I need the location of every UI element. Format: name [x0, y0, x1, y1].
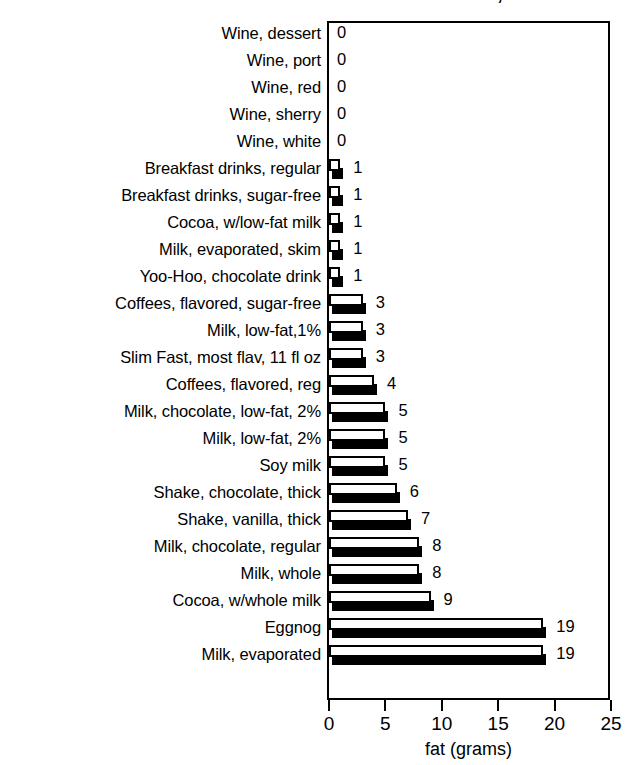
x-axis: fat (grams) 0510152025	[327, 700, 610, 764]
category-label: Wine, dessert	[221, 23, 321, 43]
bar-face	[329, 321, 363, 333]
category-label: Breakfast drinks, regular	[145, 158, 321, 178]
bar	[329, 591, 437, 614]
bar-face	[329, 537, 419, 549]
bar-face	[329, 267, 340, 279]
category-label: Cocoa, w/whole milk	[173, 590, 322, 610]
bar-value-label: 6	[410, 481, 419, 501]
bar-row: Milk, evaporated19	[0, 642, 641, 669]
bar-row: Shake, chocolate, thick6	[0, 480, 641, 507]
bar-row: Cocoa, w/low-fat milk1	[0, 210, 641, 237]
bar-face	[329, 186, 340, 198]
bar	[329, 456, 391, 479]
bar-row: Wine, dessert0	[0, 21, 641, 48]
category-label: Coffees, flavored, sugar-free	[115, 293, 321, 313]
category-label: Wine, port	[247, 50, 321, 70]
category-label: Milk, chocolate, regular	[154, 536, 321, 556]
x-axis-tick-mark	[328, 700, 330, 711]
bar-value-label: 4	[387, 373, 396, 393]
bar-face	[329, 375, 374, 387]
bar	[329, 348, 369, 371]
bar-value-label: 8	[432, 562, 441, 582]
bar-value-label: 0	[337, 49, 346, 69]
bar-value-label: 1	[353, 265, 362, 285]
bar-face	[329, 510, 408, 522]
bar-row: Eggnog19	[0, 615, 641, 642]
bar-face	[329, 456, 385, 468]
chart-title: BEVERAGES, Part 3	[327, 0, 611, 5]
bar	[329, 375, 380, 398]
bar-row: Wine, red0	[0, 75, 641, 102]
bar-row: Soy milk5	[0, 453, 641, 480]
bar-row: Milk, whole8	[0, 561, 641, 588]
category-label: Milk, evaporated	[202, 644, 321, 664]
bar-value-label: 9	[444, 589, 453, 609]
bar-value-label: 7	[421, 508, 430, 528]
category-label: Soy milk	[259, 455, 321, 475]
x-axis-tick-label: 10	[422, 713, 462, 735]
bar-value-label: 3	[376, 346, 385, 366]
x-axis-tick-label: 5	[365, 713, 405, 735]
x-axis-tick-mark	[384, 700, 386, 711]
bar-row: Breakfast drinks, regular1	[0, 156, 641, 183]
bar-row: Milk, chocolate, regular8	[0, 534, 641, 561]
bar	[329, 159, 346, 182]
bar-value-label: 0	[337, 130, 346, 150]
bar-row: Coffees, flavored, reg4	[0, 372, 641, 399]
x-axis-tick-mark	[610, 700, 612, 711]
bar-face	[329, 618, 543, 630]
bar	[329, 537, 425, 560]
bar	[329, 564, 425, 587]
bar-value-label: 8	[432, 535, 441, 555]
category-label: Milk, chocolate, low-fat, 2%	[124, 401, 321, 421]
bar-row: Wine, sherry0	[0, 102, 641, 129]
bar	[329, 429, 391, 452]
bar-row: Coffees, flavored, sugar-free3	[0, 291, 641, 318]
bar	[329, 510, 414, 533]
bar-value-label: 3	[376, 319, 385, 339]
bar-face	[329, 348, 363, 360]
x-axis-tick-mark	[497, 700, 499, 711]
category-label: Wine, red	[251, 77, 321, 97]
category-label: Milk, low-fat,1%	[207, 320, 321, 340]
category-label: Shake, vanilla, thick	[177, 509, 321, 529]
bar-value-label: 19	[556, 643, 574, 663]
bar-value-label: 1	[353, 157, 362, 177]
bar-row: Yoo-Hoo, chocolate drink1	[0, 264, 641, 291]
category-label: Milk, evaporated, skim	[159, 239, 321, 259]
bar	[329, 213, 346, 236]
bar	[329, 240, 346, 263]
bar-row: Wine, white0	[0, 129, 641, 156]
bar-face	[329, 645, 543, 657]
bar-face	[329, 564, 419, 576]
bar-row: Milk, evaporated, skim1	[0, 237, 641, 264]
bar	[329, 645, 549, 668]
bar	[329, 186, 346, 209]
x-axis-tick-label: 20	[535, 713, 575, 735]
bar-face	[329, 402, 385, 414]
bar	[329, 402, 391, 425]
category-label: Milk, whole	[240, 563, 321, 583]
x-axis-title: fat (grams)	[327, 738, 610, 760]
bar-value-label: 1	[353, 211, 362, 231]
bar-face	[329, 240, 340, 252]
category-label: Breakfast drinks, sugar-free	[121, 185, 321, 205]
bar	[329, 294, 369, 317]
bar-value-label: 3	[376, 292, 385, 312]
bar-row: Cocoa, w/whole milk9	[0, 588, 641, 615]
category-label: Eggnog	[265, 617, 321, 637]
category-label: Milk, low-fat, 2%	[203, 428, 321, 448]
bar-face	[329, 429, 385, 441]
category-label: Shake, chocolate, thick	[154, 482, 321, 502]
bar-value-label: 1	[353, 238, 362, 258]
bar-value-label: 0	[337, 103, 346, 123]
bar-row: Milk, chocolate, low-fat, 2%5	[0, 399, 641, 426]
category-label: Yoo-Hoo, chocolate drink	[140, 266, 321, 286]
category-label: Cocoa, w/low-fat milk	[167, 212, 321, 232]
bar-value-label: 0	[337, 22, 346, 42]
bar	[329, 267, 346, 290]
bar-value-label: 5	[398, 400, 407, 420]
bar-value-label: 19	[556, 616, 574, 636]
bar-row: Milk, low-fat,1%3	[0, 318, 641, 345]
category-label: Coffees, flavored, reg	[166, 374, 321, 394]
